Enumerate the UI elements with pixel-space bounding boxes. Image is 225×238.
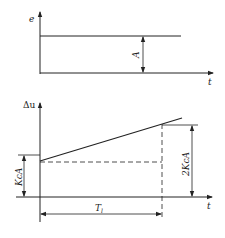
top-chart: e t A <box>29 12 213 87</box>
top-x-axis-label: t <box>208 77 212 87</box>
2kca-label: 2KcA <box>181 152 191 177</box>
kca-label: KcA <box>14 167 24 187</box>
period-label-subscript: l <box>101 207 103 214</box>
period-label: Tl <box>95 203 103 214</box>
amplitude-label: A <box>131 51 141 59</box>
diagram-canvas: e t A KcA 2KcA Tl Δu t <box>0 0 225 238</box>
bottom-chart: KcA 2KcA Tl Δu t <box>14 100 212 222</box>
bottom-y-axis-label: Δu <box>23 100 35 110</box>
bottom-x-axis-label: t <box>207 201 211 211</box>
ramp-response-line <box>40 118 182 161</box>
diagram-svg: e t A KcA 2KcA Tl Δu t <box>0 0 225 238</box>
top-y-axis-label: e <box>29 14 34 24</box>
